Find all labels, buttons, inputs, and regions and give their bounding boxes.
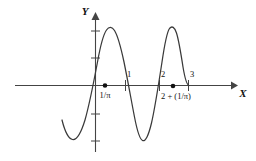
graph-canvas: Y X 1 2 3 1/π 2 + (1/π) <box>0 0 256 161</box>
y-axis-arrowhead <box>92 12 100 20</box>
annotation-one-over-pi: 1/π <box>100 90 112 100</box>
point-marker-two-plus-one-over-pi <box>171 84 176 89</box>
x-axis-label: X <box>238 87 247 99</box>
figure-container: Y X 1 2 3 1/π 2 + (1/π) <box>0 0 256 161</box>
x-axis <box>15 82 238 90</box>
point-marker-one-over-pi <box>103 83 108 88</box>
x-tick-label-3: 3 <box>190 69 194 79</box>
x-tick-label-1: 1 <box>127 69 131 79</box>
x-tick-label-2: 2 <box>161 69 165 79</box>
annotation-two-plus-one-over-pi: 2 + (1/π) <box>161 91 191 101</box>
y-axis <box>92 12 100 152</box>
x-axis-arrowhead <box>231 82 238 90</box>
y-axis-label: Y <box>82 5 90 17</box>
